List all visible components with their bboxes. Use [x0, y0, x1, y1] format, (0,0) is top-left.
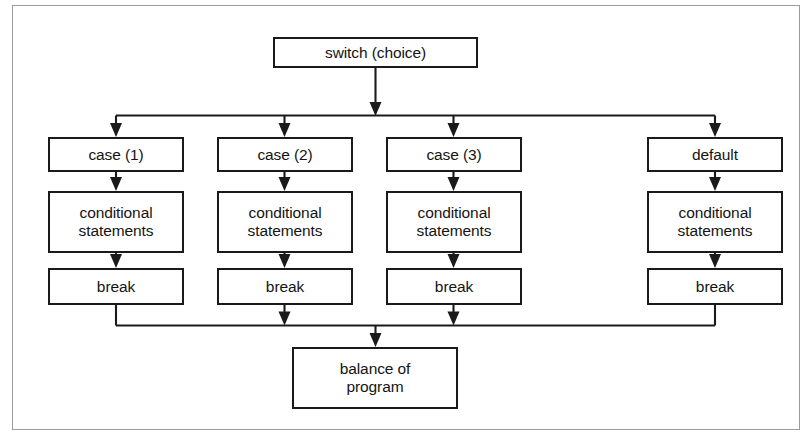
node-case-1-break[interactable]: break: [48, 268, 184, 305]
node-case-1-break-label: break: [97, 278, 135, 296]
node-case-2-head-label: case (2): [257, 146, 312, 164]
node-balance-of-program[interactable]: balance of program: [292, 347, 458, 409]
node-switch-label: switch (choice): [325, 44, 426, 62]
edge-bus-to-case-1: [110, 116, 122, 138]
node-default-break[interactable]: break: [647, 268, 783, 305]
node-case-3-break[interactable]: break: [386, 268, 522, 305]
edge-case-1-to-body: [110, 172, 122, 191]
node-default-break-label: break: [696, 278, 734, 296]
edge-merge-to-exit: [370, 326, 382, 348]
node-case-3-head-label: case (3): [426, 146, 481, 164]
node-case-1-head-label: case (1): [88, 146, 143, 164]
edge-bus-to-default: [709, 116, 721, 138]
node-case-1-body-label: conditional statements: [79, 204, 154, 240]
node-default-head-label: default: [692, 146, 738, 164]
edge-body-4-to-break: [709, 253, 721, 268]
node-case-3-body-label: conditional statements: [417, 204, 492, 240]
node-default-body-label: conditional statements: [678, 204, 753, 240]
edge-body-3-to-break: [448, 253, 460, 268]
edge-body-1-to-break: [110, 253, 122, 268]
node-case-2-break-label: break: [266, 278, 304, 296]
node-case-1-body[interactable]: conditional statements: [48, 191, 184, 253]
figure-canvas: switch (choice) case (1) conditional sta…: [0, 0, 811, 445]
node-balance-of-program-label: balance of program: [340, 360, 411, 396]
node-case-1-head[interactable]: case (1): [48, 137, 184, 172]
node-case-3-head[interactable]: case (3): [386, 137, 522, 172]
edge-case-2-to-body: [279, 172, 291, 191]
edge-break-2-to-merge: [279, 305, 291, 326]
edge-break-3-to-merge: [448, 305, 460, 326]
node-case-2-head[interactable]: case (2): [217, 137, 353, 172]
edge-bus-to-case-2: [279, 116, 291, 138]
node-default-head[interactable]: default: [647, 137, 783, 172]
edge-default-to-body: [709, 172, 721, 191]
node-switch[interactable]: switch (choice): [273, 37, 478, 68]
edge-bus-to-case-3: [448, 116, 460, 138]
edge-body-2-to-break: [279, 253, 291, 268]
node-case-2-body[interactable]: conditional statements: [217, 191, 353, 253]
node-case-2-break[interactable]: break: [217, 268, 353, 305]
edge-case-3-to-body: [448, 172, 460, 191]
node-case-3-body[interactable]: conditional statements: [386, 191, 522, 253]
node-case-2-body-label: conditional statements: [248, 204, 323, 240]
node-default-body[interactable]: conditional statements: [647, 191, 783, 253]
edge-switch-to-bus: [370, 68, 382, 116]
node-case-3-break-label: break: [435, 278, 473, 296]
